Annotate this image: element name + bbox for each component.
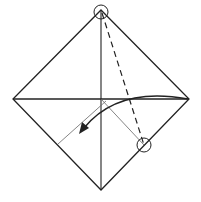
origami-diagram bbox=[0, 0, 201, 202]
thin-crease-right bbox=[101, 99, 144, 145]
fold-arrow-curve bbox=[84, 96, 188, 128]
